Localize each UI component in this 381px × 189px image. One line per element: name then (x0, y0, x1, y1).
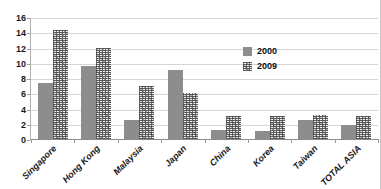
bar-2000 (38, 83, 53, 139)
bar-group (205, 18, 248, 139)
legend-label-2000: 2000 (257, 47, 277, 56)
x-axis-label-cell: China (204, 141, 248, 189)
bar-2000 (211, 130, 226, 139)
chart-legend: 2000 2009 (243, 47, 277, 71)
bar-2000 (341, 125, 356, 139)
bar-2000 (81, 66, 96, 139)
legend-swatch-2009-icon (243, 62, 252, 71)
bar-2009 (53, 30, 68, 139)
y-axis-tick-label: 14 (0, 29, 26, 38)
y-axis-tick-mark (27, 79, 30, 80)
bar-group (335, 18, 378, 139)
x-axis-tick-mark (378, 139, 379, 143)
bar-2009 (226, 116, 241, 139)
bar-2000 (255, 131, 270, 139)
bar-group (161, 18, 204, 139)
bar-group (118, 18, 161, 139)
x-axis-label: Japan (164, 144, 189, 169)
y-axis-tick-label: 8 (0, 75, 26, 84)
bar-2009 (356, 116, 371, 139)
bar-series-container (31, 18, 378, 139)
y-axis-tick-label: 12 (0, 44, 26, 53)
x-axis-label-cell: Korea (248, 141, 292, 189)
legend-item-2000: 2000 (243, 47, 277, 56)
x-axis-label: Korea (251, 144, 275, 168)
x-axis-label-cell: Japan (161, 141, 205, 189)
bar-2009 (313, 115, 328, 139)
y-axis-tick-mark (27, 33, 30, 34)
x-axis-label: Singapore (21, 144, 58, 181)
x-axis-label-cell: TOTAL ASIA (335, 141, 379, 189)
legend-swatch-2000-icon (243, 47, 252, 56)
y-axis-tick-label: 4 (0, 105, 26, 114)
legend-label-2009: 2009 (257, 62, 277, 71)
y-axis-tick-label: 16 (0, 14, 26, 23)
bar-2009 (139, 86, 154, 139)
bar-2000 (168, 70, 183, 139)
y-axis-tick-mark (27, 64, 30, 65)
x-axis-label: Malaysia (112, 144, 145, 177)
y-axis-tick-label: 0 (0, 136, 26, 145)
x-axis-label: Taiwan (291, 144, 319, 172)
bar-chart: 0246810121416 SingaporeHong KongMalaysia… (0, 0, 381, 189)
plot-area (30, 18, 378, 140)
y-axis-tick-label: 10 (0, 59, 26, 68)
y-axis-tick-mark (27, 110, 30, 111)
y-axis-tick-mark (27, 18, 30, 19)
bar-2009 (270, 116, 285, 139)
bar-group (291, 18, 334, 139)
y-axis-tick-mark (27, 49, 30, 50)
x-axis-label-cell: Malaysia (117, 141, 161, 189)
bar-group (248, 18, 291, 139)
bar-2009 (96, 48, 111, 140)
y-axis-tick-mark (27, 94, 30, 95)
bar-2000 (124, 120, 139, 139)
legend-item-2009: 2009 (243, 62, 277, 71)
bar-group (31, 18, 74, 139)
x-axis-label: China (208, 144, 232, 168)
x-axis-label-cell: Hong Kong (74, 141, 118, 189)
bar-group (74, 18, 117, 139)
y-axis-tick-mark (27, 125, 30, 126)
y-axis-tick-label: 6 (0, 90, 26, 99)
bar-2009 (183, 93, 198, 140)
y-axis-tick-label: 2 (0, 120, 26, 129)
bar-2000 (298, 120, 313, 139)
x-axis-labels: SingaporeHong KongMalaysiaJapanChinaKore… (30, 141, 378, 189)
